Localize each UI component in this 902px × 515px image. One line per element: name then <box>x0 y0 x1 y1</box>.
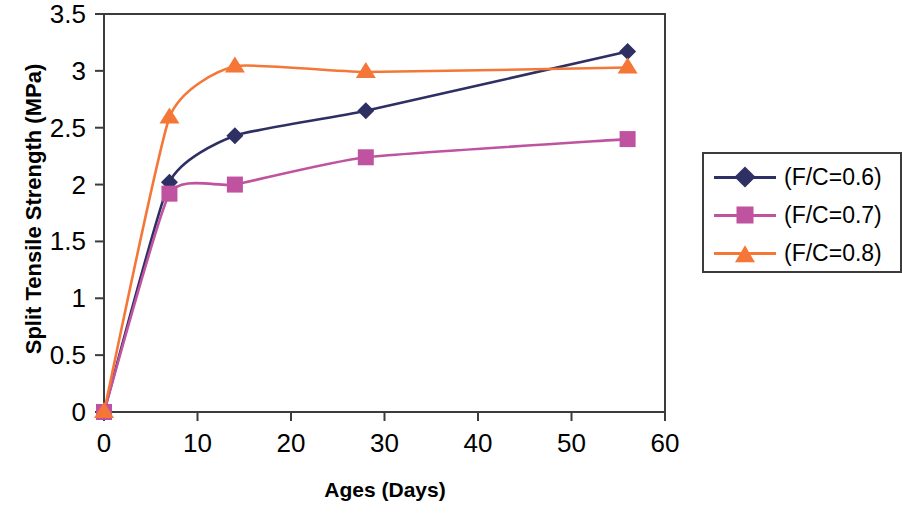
series-marker <box>227 177 243 193</box>
square-marker-icon <box>712 201 778 229</box>
y-axis-title: Split Tensile Strength (MPa) <box>21 0 47 419</box>
x-tick-label: 60 <box>625 430 705 456</box>
x-tick-label: 30 <box>345 430 425 456</box>
legend-item-0[interactable]: (F/C=0.6) <box>704 158 900 196</box>
legend-marker-1 <box>737 207 754 224</box>
x-tick-label: 10 <box>158 430 238 456</box>
diamond-marker-icon <box>712 163 778 191</box>
x-tick-label: 40 <box>438 430 518 456</box>
legend-label-0: (F/C=0.6) <box>784 166 882 189</box>
triangle-marker-icon <box>712 239 778 267</box>
x-tick-label: 20 <box>251 430 331 456</box>
series-marker <box>161 186 177 202</box>
legend-label-1: (F/C=0.7) <box>784 204 882 227</box>
legend-item-1[interactable]: (F/C=0.7) <box>704 196 900 234</box>
plot-frame <box>104 14 665 412</box>
series-marker <box>358 149 374 165</box>
series-marker <box>620 131 636 147</box>
legend-marker-2 <box>735 245 755 262</box>
chart-legend: (F/C=0.6) (F/C=0.7) (F/C=0.8) <box>702 152 902 273</box>
legend-label-2: (F/C=0.8) <box>784 242 882 265</box>
x-tick-label: 0 <box>64 430 144 456</box>
legend-marker-0 <box>734 166 755 187</box>
x-axis-title: Ages (Days) <box>104 478 666 502</box>
legend-item-2[interactable]: (F/C=0.8) <box>704 234 900 272</box>
x-tick-label: 50 <box>532 430 612 456</box>
